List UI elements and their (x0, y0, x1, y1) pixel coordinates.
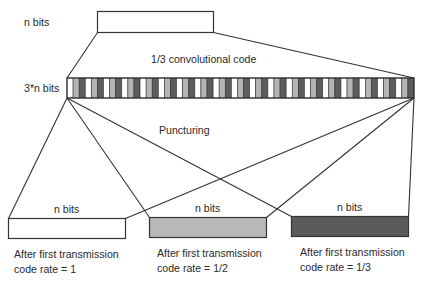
encoded-bit-cell (280, 78, 286, 98)
caption-line: After first transmission (300, 245, 405, 260)
encoded-bit-cell (335, 78, 341, 98)
encoded-bit-cell (323, 78, 329, 98)
encoded-bit-cell (286, 78, 292, 98)
encoded-bit-cell (213, 78, 219, 98)
encoded-bit-cell (164, 78, 170, 98)
output-bits-label: n bits (337, 201, 362, 213)
encoded-bit-cell (408, 78, 414, 98)
encoded-bit-cell (140, 78, 146, 98)
input-bits-label: n bits (24, 16, 49, 28)
encoded-bit-cell (377, 78, 383, 98)
encoded-bit-cell (73, 78, 79, 98)
encoded-bit-cell (177, 78, 183, 98)
encoded-bit-cell (317, 78, 323, 98)
encoded-bit-cell (122, 78, 128, 98)
encoded-bits-label: 3*n bits (24, 82, 59, 94)
output-box-rate-1-3 (292, 217, 409, 237)
encoded-bit-cell (396, 78, 402, 98)
caption-line: code rate = 1 (14, 262, 119, 277)
encoded-bit-cell (311, 78, 317, 98)
encoded-bit-cell (201, 78, 207, 98)
encoded-bit-cell (152, 78, 158, 98)
encoded-bit-cell (341, 78, 347, 98)
input-bits-box (98, 12, 214, 33)
encoded-bit-cell (250, 78, 256, 98)
encoded-bit-cell (189, 78, 195, 98)
output-caption-rate-1-2: After first transmission code rate = 1/2 (157, 246, 262, 276)
puncture-line (409, 98, 415, 217)
encoded-bit-cell (104, 78, 110, 98)
encoded-bit-cell (402, 78, 408, 98)
output-box-rate-1 (9, 219, 126, 239)
output-bits-label: n bits (195, 202, 220, 214)
encoded-bit-cell (244, 78, 250, 98)
output-caption-rate-1: After first transmission code rate = 1 (14, 247, 119, 277)
encoded-bit-cell (329, 78, 335, 98)
encoded-bit-cell (146, 78, 152, 98)
encoded-bit-cell (298, 78, 304, 98)
encoded-bit-cell (219, 78, 225, 98)
caption-line: After first transmission (14, 247, 119, 262)
encoder-label: 1/3 convolutional code (151, 53, 256, 65)
encoded-bit-cell (134, 78, 140, 98)
encoded-bit-cell (292, 78, 298, 98)
encoded-bit-cell (110, 78, 116, 98)
puncture-line (126, 98, 415, 219)
output-caption-rate-1-3: After first transmission code rate = 1/3 (300, 245, 405, 275)
caption-line: code rate = 1/3 (300, 260, 405, 275)
encoded-bit-cell (359, 78, 365, 98)
encoded-bit-cell (67, 78, 73, 98)
caption-line: After first transmission (157, 246, 262, 261)
puncturing-diagram (0, 0, 421, 286)
encoded-bit-cell (268, 78, 274, 98)
puncture-line (67, 98, 150, 218)
puncturing-label: Puncturing (159, 124, 210, 136)
encode-line-left (67, 33, 98, 79)
encoded-bit-cell (91, 78, 97, 98)
encoded-bit-cell (390, 78, 396, 98)
encoded-bit-cell (353, 78, 359, 98)
encoded-bit-cell (195, 78, 201, 98)
encoded-bit-cell (85, 78, 91, 98)
encoded-bit-cell (262, 78, 268, 98)
encoded-bit-cell (225, 78, 231, 98)
encoded-bit-cell (183, 78, 189, 98)
encoded-bit-cell (231, 78, 237, 98)
encoded-bit-cell (170, 78, 176, 98)
puncture-line (67, 98, 292, 217)
encoded-bit-cell (274, 78, 280, 98)
encoded-bit-cell (347, 78, 353, 98)
encoded-bit-cell (371, 78, 377, 98)
output-bits-label: n bits (54, 203, 79, 215)
encoded-bit-cell (304, 78, 310, 98)
encoded-bit-cell (237, 78, 243, 98)
puncture-line (267, 98, 415, 218)
encoded-bit-cell (207, 78, 213, 98)
puncture-line (9, 98, 68, 219)
encoded-bit-cell (128, 78, 134, 98)
encoded-bit-cell (365, 78, 371, 98)
encoded-bit-cell (158, 78, 164, 98)
output-box-rate-1-2 (150, 218, 267, 238)
encoded-bit-cell (256, 78, 262, 98)
encoded-bit-cell (384, 78, 390, 98)
encoded-bits-bar (67, 78, 414, 98)
encoded-bit-cell (116, 78, 122, 98)
caption-line: code rate = 1/2 (157, 261, 262, 276)
encoded-bit-cell (79, 78, 85, 98)
encoded-bit-cell (97, 78, 103, 98)
